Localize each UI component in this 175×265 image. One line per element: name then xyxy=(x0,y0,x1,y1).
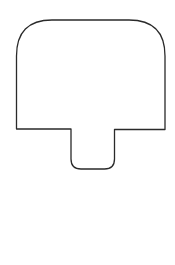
shape-outline xyxy=(0,0,175,265)
mushroom-shape-icon xyxy=(17,20,166,169)
diagram-canvas xyxy=(0,0,175,265)
